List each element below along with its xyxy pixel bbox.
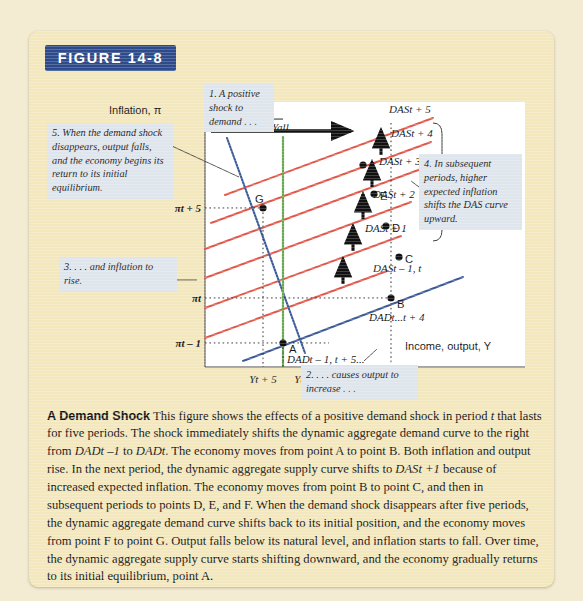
dad-label-shifted: DADt...t + 4 <box>368 311 425 323</box>
caption-body-1: This figure shows the effects of a posit… <box>153 409 491 423</box>
point-label-b: B <box>397 298 404 310</box>
callout-leader-lines <box>161 141 419 361</box>
caption-title: A Demand Shock <box>47 409 150 423</box>
caption-body-5: because of increased expected inflation.… <box>47 462 539 583</box>
dad-shifted-curve <box>243 277 463 361</box>
das-label-t0: DASt – 1, t <box>372 262 422 274</box>
callout-expected-inflation: 4. In subsequent periods, higher expecte… <box>419 154 522 230</box>
caption-das-to: DASt +1 <box>395 462 440 476</box>
caption-block: A Demand Shock This figure shows the eff… <box>47 395 542 599</box>
point-g-dot <box>259 204 266 211</box>
point-c-dot <box>395 253 402 260</box>
das-label-t5: DASt + 5 <box>388 103 431 115</box>
das-label-t4: DASt + 4 <box>390 127 433 139</box>
point-a-dot <box>279 339 286 346</box>
guide-lines <box>205 123 391 367</box>
figure-page: FIGURE 14-8 Inflation, π Income, output,… <box>0 0 583 601</box>
y-tick-pi-t5: πt + 5 <box>175 202 202 214</box>
y-tick-labels: πt + 5 πt πt – 1 <box>175 202 202 349</box>
caption-dad-from: DADt –1 <box>75 444 120 458</box>
natural-output-label: Yall <box>272 121 289 133</box>
y-tick-pi-tm1: πt – 1 <box>175 337 201 349</box>
point-label-g: G <box>255 193 264 205</box>
callout-demand-shock: 1. A positive shock to demand . . . <box>204 84 274 132</box>
figure-graphic: A B C D E F G DASt + 5 DASt + 4 DASt + 3… <box>29 31 554 431</box>
das-label-t2: DASt + 2 <box>372 188 415 200</box>
point-f-dot <box>359 161 366 168</box>
callout-inflation-rise: 3. . . . and inflation to rise. <box>59 257 177 292</box>
das-label-t1: DASt + 1 <box>364 222 407 234</box>
das-shift-arrows <box>343 130 381 284</box>
das-label-t3: DASt + 3 <box>378 155 421 167</box>
natural-output-label-group: Yall <box>272 119 289 133</box>
caption-text: A Demand Shock This figure shows the eff… <box>47 408 542 587</box>
callout-shock-disappears: 5. When the demand shock disappears, out… <box>47 123 173 199</box>
y-tick-pi-t: πt <box>192 292 202 304</box>
x-tick-y-t5: Yt + 5 <box>249 373 277 385</box>
caption-body-3: to <box>120 444 136 458</box>
dad-label-initial: DADt – 1, t + 5... <box>286 353 364 365</box>
point-label-f: F <box>369 161 376 173</box>
point-b-dot <box>387 294 394 301</box>
figure-card: FIGURE 14-8 Inflation, π Income, output,… <box>29 31 554 587</box>
caption-dad-to: DADt <box>136 444 165 458</box>
